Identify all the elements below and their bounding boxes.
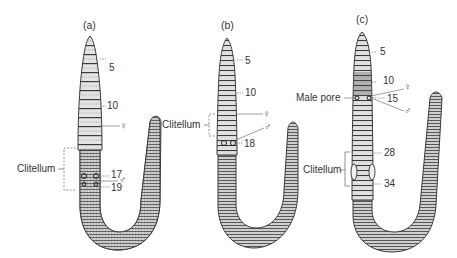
panel-a-clitellum-label: Clitellum (17, 164, 55, 174)
panel-c-male-pore-label: Male pore (296, 93, 340, 103)
worm-illustrations (0, 0, 457, 258)
panel-a-label: (a) (83, 20, 96, 30)
worm-c (340, 32, 442, 252)
worm-b (160, 38, 298, 248)
panel-c-male-pore-icon: ♂ (404, 106, 412, 116)
panel-a-male-pore-icon: ♂ (119, 175, 127, 185)
panel-c-segment-5: 5 (380, 47, 386, 57)
panel-c-segment-28: 28 (384, 148, 395, 158)
panel-c-segment-10: 10 (383, 76, 394, 86)
panel-c-segment-34: 34 (384, 179, 395, 189)
panel-b-female-pore-icon: ♀ (263, 109, 271, 119)
panel-c-segment-15: 15 (387, 94, 398, 104)
panel-b-segment-5: 5 (245, 56, 251, 66)
panel-a-female-pore-icon: ♀ (120, 121, 128, 131)
panel-c-clitellum-label: Clitellum (303, 165, 341, 175)
worm-b-head (217, 38, 237, 155)
panel-b-label: (b) (221, 20, 234, 30)
panel-b-segment-10: 10 (245, 88, 256, 98)
earthworm-diagram: (a) 5 10 17 19 Clitellum ♀ ♂ (b) 5 10 18… (0, 0, 457, 258)
panel-a-segment-10: 10 (107, 101, 118, 111)
panel-c-female-pore-icon: ♀ (404, 82, 412, 92)
panel-c-label: (c) (356, 14, 368, 24)
panel-b-segment-18: 18 (244, 139, 255, 149)
panel-a-segment-5: 5 (109, 63, 115, 73)
panel-b-male-pore-icon: ♂ (264, 122, 272, 132)
panel-b-clitellum-label: Clitellum (162, 120, 200, 130)
worm-a-head (78, 36, 102, 150)
